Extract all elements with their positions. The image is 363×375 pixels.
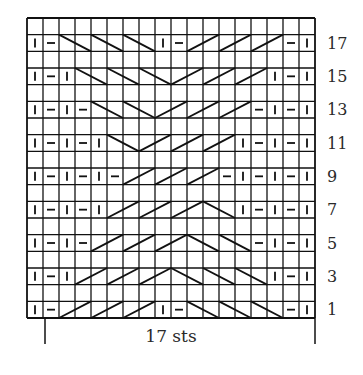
row-label-15: 15 bbox=[327, 67, 347, 86]
chart-canvas: 1715131197531 17 sts bbox=[0, 0, 363, 375]
row-label-3: 3 bbox=[327, 267, 337, 286]
repeat-label: 17 sts bbox=[145, 326, 196, 346]
row-label-17: 17 bbox=[327, 34, 347, 53]
row-label-5: 5 bbox=[327, 234, 337, 253]
row-label-9: 9 bbox=[327, 167, 337, 186]
row-label-13: 13 bbox=[327, 100, 347, 119]
chart-grid bbox=[27, 18, 315, 318]
row-number-labels: 1715131197531 bbox=[327, 34, 347, 320]
row-label-1: 1 bbox=[327, 300, 337, 319]
row-label-11: 11 bbox=[327, 134, 347, 153]
knitting-chart: 1715131197531 17 sts bbox=[0, 0, 363, 375]
repeat-bracket: 17 sts bbox=[45, 318, 315, 346]
row-label-7: 7 bbox=[327, 200, 337, 219]
